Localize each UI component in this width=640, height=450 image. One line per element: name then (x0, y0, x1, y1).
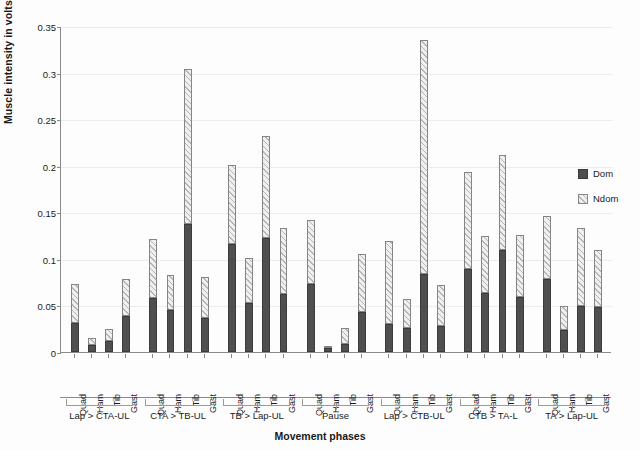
bar-segment-dom[interactable] (560, 330, 568, 352)
x-axis-tick (265, 354, 266, 358)
bar-stack[interactable] (245, 26, 253, 352)
legend-item-dom: Dom (578, 168, 638, 179)
x-axis-tick (283, 354, 284, 358)
plot-area (60, 27, 611, 353)
gridline (61, 27, 612, 28)
bar-segment-ndom[interactable] (560, 306, 568, 329)
bar-stack[interactable] (358, 26, 366, 352)
bar-segment-dom[interactable] (228, 244, 236, 352)
bar-segment-ndom[interactable] (464, 172, 472, 269)
bar-stack[interactable] (149, 26, 157, 352)
x-axis-tick (327, 354, 328, 358)
group-label: TA > Lap-UL (527, 410, 617, 421)
y-axis-tick (57, 306, 61, 307)
bar-segment-dom[interactable] (516, 297, 524, 352)
bar-segment-dom[interactable] (201, 318, 209, 352)
bar-segment-dom[interactable] (324, 348, 332, 352)
bar-segment-ndom[interactable] (385, 241, 393, 324)
bar-stack[interactable] (499, 26, 507, 352)
bar-segment-dom[interactable] (245, 303, 253, 352)
bar-stack[interactable] (464, 26, 472, 352)
bar-segment-dom[interactable] (184, 224, 192, 352)
bar-segment-dom[interactable] (307, 284, 315, 352)
y-axis-tick-label: 0.05 (22, 301, 56, 312)
bar-stack[interactable] (262, 26, 270, 352)
bar-segment-ndom[interactable] (88, 338, 96, 345)
bar-stack[interactable] (88, 26, 96, 352)
bar-segment-ndom[interactable] (324, 346, 332, 349)
y-axis-tick-label: 0 (22, 348, 56, 359)
bar-segment-dom[interactable] (385, 324, 393, 352)
bar-segment-ndom[interactable] (543, 216, 551, 279)
bar-stack[interactable] (201, 26, 209, 352)
bar-segment-dom[interactable] (71, 323, 79, 352)
bar-stack[interactable] (341, 26, 349, 352)
bar-stack[interactable] (403, 26, 411, 352)
bar-segment-dom[interactable] (499, 250, 507, 352)
bar-segment-dom[interactable] (543, 279, 551, 352)
bar-chart-figure: Muscle intensity in volts 0.350.30.250.2… (0, 0, 640, 450)
bar-segment-ndom[interactable] (481, 236, 489, 294)
bar-segment-dom[interactable] (358, 312, 366, 352)
x-axis-tick (563, 354, 564, 358)
bar-segment-dom[interactable] (280, 294, 288, 352)
bar-stack[interactable] (167, 26, 175, 352)
bar-stack[interactable] (307, 26, 315, 352)
bar-segment-ndom[interactable] (105, 329, 113, 341)
bar-segment-ndom[interactable] (245, 258, 253, 303)
bar-segment-ndom[interactable] (184, 69, 192, 225)
bar-segment-ndom[interactable] (122, 279, 130, 315)
bar-segment-ndom[interactable] (262, 136, 270, 238)
bar-stack[interactable] (543, 26, 551, 352)
bar-stack[interactable] (105, 26, 113, 352)
bar-segment-dom[interactable] (481, 293, 489, 352)
bar-segment-ndom[interactable] (341, 328, 349, 344)
bar-segment-dom[interactable] (105, 341, 113, 352)
bar-segment-ndom[interactable] (228, 165, 236, 244)
bar-segment-dom[interactable] (122, 316, 130, 352)
bar-segment-ndom[interactable] (516, 235, 524, 297)
bar-stack[interactable] (122, 26, 130, 352)
bar-stack[interactable] (324, 26, 332, 352)
bar-segment-dom[interactable] (149, 298, 157, 352)
bar-segment-ndom[interactable] (594, 250, 602, 307)
bar-segment-dom[interactable] (437, 326, 445, 352)
bar-segment-dom[interactable] (167, 310, 175, 352)
bar-segment-ndom[interactable] (437, 285, 445, 326)
group-bracket (66, 399, 133, 406)
group-bracket (381, 399, 448, 406)
bar-segment-ndom[interactable] (577, 228, 585, 306)
bar-stack[interactable] (228, 26, 236, 352)
bar-stack[interactable] (516, 26, 524, 352)
legend: Dom Ndom (578, 168, 638, 218)
bar-segment-dom[interactable] (577, 306, 585, 352)
bar-segment-ndom[interactable] (403, 299, 411, 328)
bar-segment-dom[interactable] (341, 344, 349, 352)
bar-stack[interactable] (184, 26, 192, 352)
x-axis-tick (440, 354, 441, 358)
bar-stack[interactable] (385, 26, 393, 352)
bar-stack[interactable] (560, 26, 568, 352)
bar-segment-ndom[interactable] (280, 228, 288, 294)
bar-segment-ndom[interactable] (71, 284, 79, 323)
bar-stack[interactable] (481, 26, 489, 352)
bar-segment-ndom[interactable] (420, 40, 428, 274)
x-axis-tick (467, 354, 468, 358)
bar-segment-dom[interactable] (262, 238, 270, 352)
bar-segment-ndom[interactable] (358, 254, 366, 312)
bar-segment-dom[interactable] (403, 328, 411, 352)
bar-segment-ndom[interactable] (201, 277, 209, 318)
bar-segment-dom[interactable] (420, 274, 428, 352)
y-axis-tick-label: 0.25 (22, 115, 56, 126)
bar-stack[interactable] (437, 26, 445, 352)
bar-segment-dom[interactable] (464, 269, 472, 352)
bar-segment-dom[interactable] (88, 345, 96, 352)
bar-segment-ndom[interactable] (149, 239, 157, 298)
bar-segment-ndom[interactable] (499, 155, 507, 250)
bar-stack[interactable] (280, 26, 288, 352)
bar-stack[interactable] (71, 26, 79, 352)
bar-segment-ndom[interactable] (307, 220, 315, 284)
bar-segment-ndom[interactable] (167, 275, 175, 310)
bar-stack[interactable] (420, 26, 428, 352)
bar-segment-dom[interactable] (594, 307, 602, 352)
